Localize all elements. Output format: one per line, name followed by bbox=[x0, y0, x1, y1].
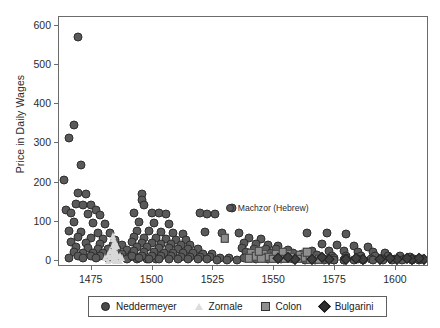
data-point-neddermeyer bbox=[135, 253, 144, 262]
data-point-neddermeyer bbox=[232, 255, 241, 264]
data-point-zornale bbox=[110, 253, 116, 263]
data-point-neddermeyer bbox=[106, 229, 115, 238]
data-point-neddermeyer bbox=[342, 230, 351, 239]
data-point-neddermeyer bbox=[364, 242, 373, 251]
data-point-neddermeyer bbox=[179, 248, 188, 257]
data-point-neddermeyer bbox=[103, 254, 112, 263]
data-point-neddermeyer bbox=[205, 253, 214, 262]
data-point-neddermeyer bbox=[366, 254, 375, 263]
data-point-neddermeyer bbox=[313, 251, 322, 260]
legend-item-neddermeyer[interactable]: Neddermeyer bbox=[101, 301, 177, 312]
data-point-neddermeyer bbox=[305, 253, 314, 262]
data-point-neddermeyer bbox=[222, 255, 231, 264]
legend-item-zornale[interactable]: Zornale bbox=[195, 301, 243, 312]
data-point-zornale bbox=[112, 235, 118, 245]
data-point-neddermeyer bbox=[140, 247, 149, 256]
data-point-neddermeyer bbox=[110, 235, 119, 244]
data-point-neddermeyer bbox=[142, 255, 151, 264]
data-point-neddermeyer bbox=[74, 252, 83, 261]
data-point-neddermeyer bbox=[261, 244, 270, 253]
data-point-neddermeyer bbox=[108, 240, 117, 249]
data-point-colon bbox=[310, 253, 319, 262]
legend-item-bulgarini[interactable]: Bulgarini bbox=[320, 301, 374, 312]
data-point-neddermeyer bbox=[147, 252, 156, 261]
data-point-neddermeyer bbox=[106, 252, 115, 261]
data-point-neddermeyer bbox=[249, 244, 258, 253]
data-point-neddermeyer bbox=[98, 249, 107, 258]
data-point-neddermeyer bbox=[98, 234, 107, 243]
data-point-neddermeyer bbox=[276, 248, 285, 257]
data-point-neddermeyer bbox=[244, 234, 253, 243]
data-point-neddermeyer bbox=[264, 254, 273, 263]
data-point-neddermeyer bbox=[388, 255, 397, 264]
data-point-neddermeyer bbox=[198, 249, 207, 258]
data-point-bulgarini bbox=[317, 252, 328, 263]
data-point-zornale bbox=[117, 254, 123, 264]
data-point-neddermeyer bbox=[415, 255, 424, 264]
data-point-neddermeyer bbox=[164, 254, 173, 263]
data-point-neddermeyer bbox=[400, 255, 409, 264]
y-tick-label: 300 bbox=[33, 136, 51, 148]
x-tick-mark bbox=[334, 265, 335, 270]
data-point-neddermeyer bbox=[371, 252, 380, 261]
data-point-neddermeyer bbox=[271, 245, 280, 254]
data-point-neddermeyer bbox=[74, 233, 83, 242]
data-point-neddermeyer bbox=[154, 209, 163, 218]
data-point-neddermeyer bbox=[240, 254, 249, 263]
scatter-chart-figure: Price in Daily Wages 0100200300400500600… bbox=[0, 0, 440, 328]
data-point-neddermeyer bbox=[108, 249, 117, 258]
data-point-neddermeyer bbox=[330, 255, 339, 264]
data-point-bulgarini bbox=[392, 254, 403, 265]
legend-item-colon[interactable]: Colon bbox=[261, 301, 302, 312]
data-point-zornale bbox=[110, 232, 116, 242]
legend-item-label: Zornale bbox=[209, 301, 243, 312]
data-point-neddermeyer bbox=[240, 239, 249, 248]
data-point-neddermeyer bbox=[356, 252, 365, 261]
data-point-neddermeyer bbox=[317, 240, 326, 249]
data-point-neddermeyer bbox=[417, 255, 426, 264]
data-point-neddermeyer bbox=[132, 254, 141, 263]
data-point-neddermeyer bbox=[176, 252, 185, 261]
data-point-colon bbox=[288, 253, 297, 262]
data-point-colon bbox=[281, 255, 290, 264]
data-point-neddermeyer bbox=[96, 239, 105, 248]
data-point-neddermeyer bbox=[67, 208, 76, 217]
data-point-zornale bbox=[112, 251, 118, 261]
data-point-bulgarini bbox=[324, 253, 335, 264]
x-tick-label: 1475 bbox=[79, 273, 102, 285]
data-point-neddermeyer bbox=[79, 248, 88, 257]
data-point-zornale bbox=[110, 252, 116, 262]
data-point-neddermeyer bbox=[176, 240, 185, 249]
y-tick-label: 500 bbox=[33, 58, 51, 70]
data-point-neddermeyer bbox=[79, 253, 88, 262]
data-point-neddermeyer bbox=[276, 254, 285, 263]
data-point-neddermeyer bbox=[218, 228, 227, 237]
data-point-neddermeyer bbox=[383, 252, 392, 261]
data-point-neddermeyer bbox=[203, 209, 212, 218]
data-point-neddermeyer bbox=[96, 210, 105, 219]
data-point-zornale bbox=[102, 251, 108, 261]
data-point-neddermeyer bbox=[118, 241, 127, 250]
data-point-neddermeyer bbox=[274, 241, 283, 250]
data-point-neddermeyer bbox=[103, 244, 112, 253]
data-point-bulgarini bbox=[407, 254, 418, 265]
x-tick-label: 1550 bbox=[262, 273, 285, 285]
triangle-marker-icon bbox=[195, 303, 203, 310]
data-point-neddermeyer bbox=[137, 190, 146, 199]
data-point-neddermeyer bbox=[157, 252, 166, 261]
data-point-neddermeyer bbox=[325, 246, 334, 255]
data-point-neddermeyer bbox=[137, 196, 146, 205]
data-point-neddermeyer bbox=[320, 255, 329, 264]
data-point-neddermeyer bbox=[93, 228, 102, 237]
data-point-colon bbox=[257, 254, 266, 263]
data-point-neddermeyer bbox=[237, 244, 246, 253]
data-point-zornale bbox=[110, 242, 116, 252]
data-point-bulgarini bbox=[341, 254, 352, 265]
x-tick-mark bbox=[395, 265, 396, 270]
data-point-neddermeyer bbox=[169, 228, 178, 237]
data-point-neddermeyer bbox=[59, 176, 68, 185]
data-point-neddermeyer bbox=[164, 244, 173, 253]
data-point-neddermeyer bbox=[179, 229, 188, 238]
y-tick-label: 200 bbox=[33, 176, 51, 188]
data-point-neddermeyer bbox=[283, 245, 292, 254]
